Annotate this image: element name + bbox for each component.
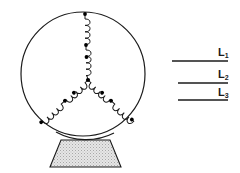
- supply-line-label-l2: L2: [218, 69, 229, 80]
- star-point-junction-dot: [86, 78, 90, 82]
- winding-phase-2: [38, 79, 91, 128]
- motor-housing-circle: [21, 12, 145, 136]
- terminal-dot-phase-1-outer: [83, 12, 87, 16]
- supply-line-label-l2-text: L: [218, 68, 225, 80]
- supply-line-label-l1: L1: [218, 47, 229, 58]
- coil-phase-1-lower: [86, 46, 91, 76]
- winding-phase-1: [83, 12, 91, 80]
- terminal-dot-phase-1-inner: [85, 55, 89, 59]
- motor-base: [50, 132, 121, 167]
- supply-line-label-l1-subscript: 1: [225, 52, 229, 59]
- motor-schematic-figure: L1 L2 L3: [0, 0, 240, 173]
- terminal-dot-phase-2-inner: [71, 90, 76, 95]
- supply-line-label-l1-text: L: [218, 46, 225, 58]
- schematic-canvas: [0, 0, 240, 173]
- supply-line-label-l3-subscript: 3: [225, 92, 229, 99]
- terminal-dot-phase-1-mid: [84, 43, 88, 47]
- terminal-dot-phase-2-outer: [38, 119, 43, 124]
- supply-line-label-l3: L3: [218, 87, 229, 98]
- motor-base-shape: [50, 140, 121, 167]
- coil-phase-2-outer: [42, 101, 68, 125]
- coil-phase-1-upper: [85, 15, 90, 45]
- coil-phase-2-inner: [66, 80, 92, 104]
- supply-line-label-l3-text: L: [218, 86, 225, 98]
- coil-phase-3-outer: [108, 101, 133, 125]
- terminal-dot-phase-3-inner: [99, 90, 104, 95]
- winding-phase-3: [85, 79, 135, 125]
- coil-phase-3-inner: [85, 80, 111, 104]
- supply-line-label-l2-subscript: 2: [225, 74, 229, 81]
